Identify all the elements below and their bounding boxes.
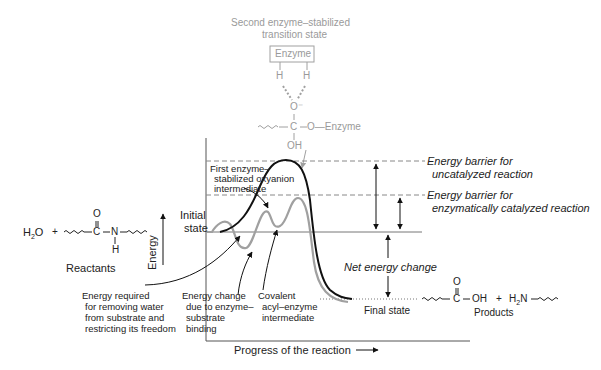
initial-state-label-1: Initial [180,209,206,221]
acyl-pointer [263,230,277,290]
reactant-amide-h: H [112,244,119,256]
water-removal-label-4: restricting its freedom [85,323,176,335]
uncatalyzed-barrier-label-1: Energy barrier for [427,155,513,168]
catalyzed-barrier-label-2: enzymatically catalyzed reaction [432,202,590,215]
x-axis-label: Progress of the reaction [234,344,351,356]
h-left: H [276,70,283,82]
final-state-label: Final state [364,305,410,317]
initial-state-label-2: state [184,222,208,234]
y-axis-label: Energy [146,235,158,270]
uncatalyzed-barrier-label-2: uncatalyzed reaction [432,168,533,181]
h-right: H [303,70,310,82]
transition-state-title-2: transition state [262,29,327,41]
binding-pointer [238,252,252,295]
binding-label-4: binding [186,323,217,335]
acyl-label-3: intermediate [262,312,314,324]
product-hydroxyl: OH [472,293,487,305]
transition-state-title-1: Second enzyme–stabilized [231,17,350,29]
first-intermediate-label-3: intermediate [214,183,266,195]
reactant-structure [64,221,147,244]
transition-state-structure [258,46,314,168]
net-energy-label: Net energy change [344,261,437,274]
product-plus: + [496,293,502,305]
ts-carbon: C [290,121,297,133]
ts-hydroxyl: OH [287,140,302,152]
reactant-nitrogen: N [111,226,118,238]
enzyme-box-label: Enzyme [275,48,311,60]
reactant-carbon: C [93,226,100,238]
product-carbon: C [453,293,460,305]
catalyzed-barrier-label-1: Energy barrier for [427,189,513,202]
product-structure [422,288,558,301]
reactants-label: Reactants [66,262,116,274]
oxyanion-o: O⁻ [290,101,303,113]
water-label: H2O [23,226,43,243]
reactant-carbonyl-o: O [93,208,101,220]
water-removal-pointer [145,236,240,285]
products-label: Products [474,307,513,319]
product-carbonyl-o: O [453,276,461,288]
ts-o-enzyme: O—Enzyme [307,121,361,133]
reactant-plus: + [52,226,58,238]
